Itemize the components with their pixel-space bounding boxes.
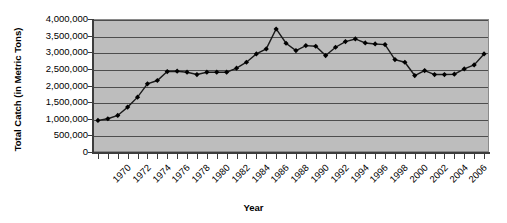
chart-container: Total Catch (in Metric Tons) 4,000,0003,… bbox=[0, 0, 507, 223]
x-tick-label: 1970 bbox=[110, 162, 133, 185]
x-axis-title: Year bbox=[0, 202, 507, 213]
x-tick-label: 1974 bbox=[150, 162, 173, 185]
x-tick-label: 2002 bbox=[427, 162, 450, 185]
x-tick-label: 1994 bbox=[348, 162, 371, 185]
x-tick-label: 1998 bbox=[387, 162, 410, 185]
x-tick-label: 1972 bbox=[130, 162, 153, 185]
x-tick-label: 2004 bbox=[447, 162, 470, 185]
x-tick-label: 1986 bbox=[269, 162, 292, 185]
x-tick-label: 1976 bbox=[170, 162, 193, 185]
x-tick-label: 1996 bbox=[368, 162, 391, 185]
x-axis-tick-labels: 1970197219741976197819801982198419861988… bbox=[0, 0, 507, 223]
x-tick-label: 1984 bbox=[249, 162, 272, 185]
x-tick-label: 1992 bbox=[328, 162, 351, 185]
x-tick-label: 2006 bbox=[467, 162, 490, 185]
x-tick-label: 1988 bbox=[288, 162, 311, 185]
x-tick-label: 1980 bbox=[209, 162, 232, 185]
x-tick-label: 2000 bbox=[407, 162, 430, 185]
x-tick-label: 1978 bbox=[189, 162, 212, 185]
x-tick-label: 1990 bbox=[308, 162, 331, 185]
x-tick-label: 1982 bbox=[229, 162, 252, 185]
